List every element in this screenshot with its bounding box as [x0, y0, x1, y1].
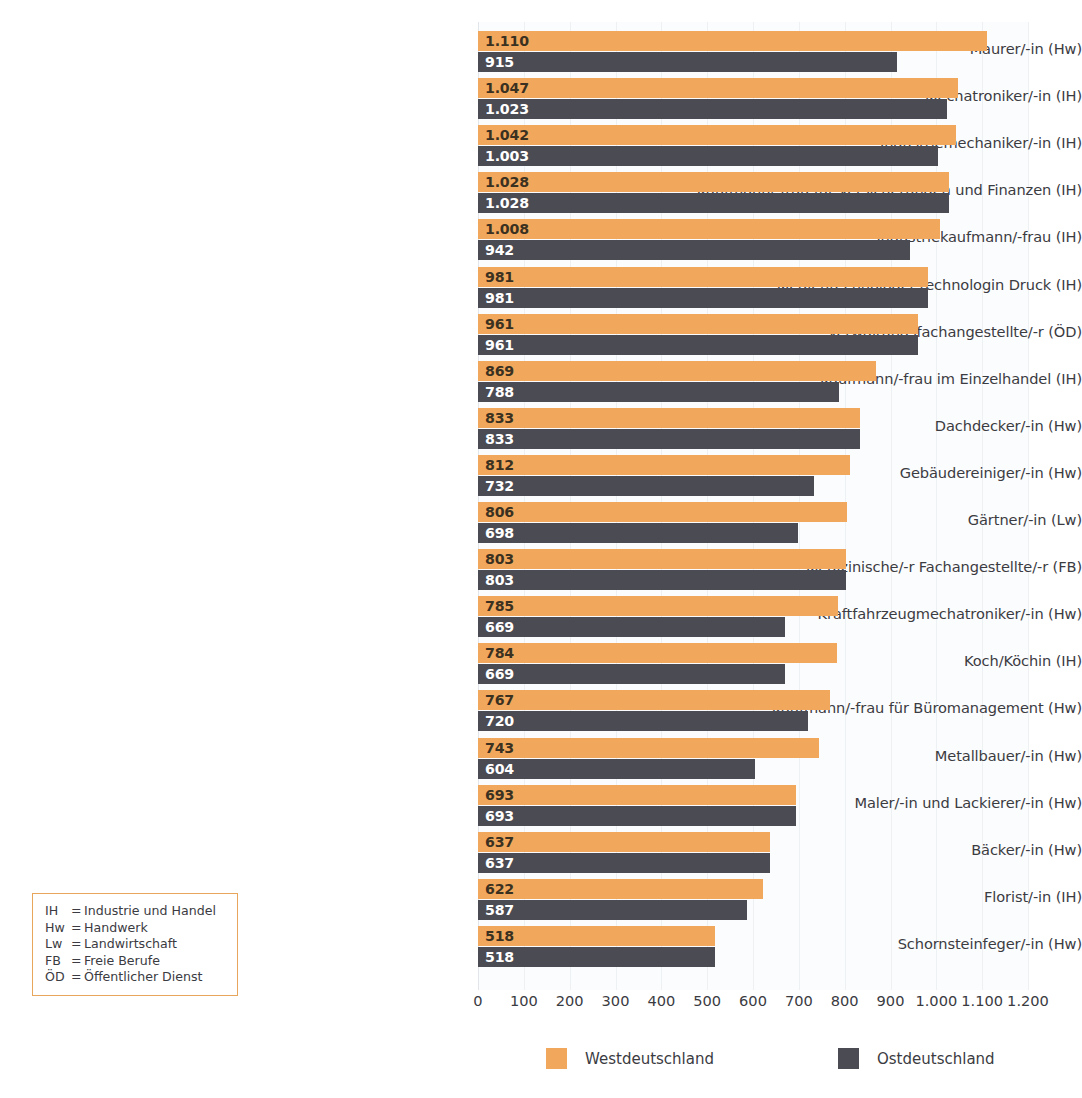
abbreviation-text: Industrie und Handel	[84, 903, 216, 920]
bar-westdeutschland: 803	[478, 549, 846, 569]
bar-row: Medizinische/-r Fachangestellte/-r (FB)8…	[0, 549, 1082, 593]
legend-item-westdeutschland[interactable]: Westdeutschland	[546, 1048, 714, 1069]
abbreviation-equals: =	[71, 903, 84, 920]
bar-value-label: 698	[485, 525, 514, 541]
series-legend: WestdeutschlandOstdeutschland	[0, 1048, 1082, 1088]
bar-value-label: 981	[485, 269, 514, 285]
bar-row: Mechatroniker/-in (IH)1.0471.023	[0, 78, 1082, 122]
bar-westdeutschland: 812	[478, 455, 850, 475]
bar-ostdeutschland: 518	[478, 947, 715, 967]
bar-westdeutschland: 1.110	[478, 31, 987, 51]
bar-value-label: 767	[485, 692, 514, 708]
bar-westdeutschland: 981	[478, 267, 928, 287]
x-tick-label: 1.100	[961, 992, 1003, 1009]
bar-westdeutschland: 1.028	[478, 172, 949, 192]
bar-value-label: 784	[485, 645, 514, 661]
bar-ostdeutschland: 693	[478, 806, 796, 826]
bar-value-label: 1.110	[485, 33, 529, 49]
bar-value-label: 961	[485, 316, 514, 332]
x-axis-tick-labels: 01002003004005006007008009001.0001.1001.…	[0, 992, 1082, 1018]
abbreviation-key: ÖD	[45, 969, 71, 986]
bar-value-label: 788	[485, 384, 514, 400]
abbreviation-key: FB	[45, 953, 71, 970]
bar-row: Industriekaufmann/-frau (IH)1.008942	[0, 219, 1082, 263]
bar-value-label: 732	[485, 478, 514, 494]
bar-value-label: 587	[485, 902, 514, 918]
x-tick-label: 200	[556, 992, 584, 1009]
bar-westdeutschland: 784	[478, 643, 837, 663]
bar-row: Bäcker/-in (Hw)637637	[0, 832, 1082, 876]
bar-value-label: 915	[485, 54, 514, 70]
x-tick-label: 0	[473, 992, 482, 1009]
bar-ostdeutschland: 732	[478, 476, 814, 496]
bar-ostdeutschland: 1.023	[478, 99, 947, 119]
bar-westdeutschland: 1.008	[478, 219, 940, 239]
x-tick-label: 700	[785, 992, 813, 1009]
legend-label: Westdeutschland	[585, 1050, 714, 1068]
bar-value-label: 1.047	[485, 80, 529, 96]
x-tick-label: 1.000	[915, 992, 957, 1009]
abbreviation-row: Hw=Handwerk	[45, 920, 227, 937]
bar-ostdeutschland: 669	[478, 664, 785, 684]
bar-row: Maurer/-in (Hw)1.110915	[0, 31, 1082, 75]
bar-row: Gärtner/-in (Lw)806698	[0, 502, 1082, 546]
bar-ostdeutschland: 788	[478, 382, 839, 402]
abbreviation-key: IH	[45, 903, 71, 920]
bar-ostdeutschland: 637	[478, 853, 770, 873]
bar-row: Koch/Köchin (IH)784669	[0, 643, 1082, 687]
abbreviation-legend-box: IH=Industrie und HandelHw=HandwerkLw=Lan…	[32, 893, 238, 996]
abbreviation-row: Lw=Landwirtschaft	[45, 936, 227, 953]
bar-westdeutschland: 785	[478, 596, 838, 616]
abbreviation-equals: =	[71, 953, 84, 970]
abbreviation-equals: =	[71, 920, 84, 937]
abbreviation-text: Handwerk	[84, 920, 148, 937]
legend-item-ostdeutschland[interactable]: Ostdeutschland	[838, 1048, 995, 1069]
bar-value-label: 693	[485, 808, 514, 824]
x-tick-label: 900	[877, 992, 905, 1009]
legend-label: Ostdeutschland	[877, 1050, 995, 1068]
bar-row: Maler/-in und Lackierer/-in (Hw)693693	[0, 785, 1082, 829]
bar-ostdeutschland: 981	[478, 288, 928, 308]
bar-value-label: 518	[485, 928, 514, 944]
bar-westdeutschland: 518	[478, 926, 715, 946]
bar-ostdeutschland: 803	[478, 570, 846, 590]
bar-chart: Maurer/-in (Hw)1.110915Mechatroniker/-in…	[0, 0, 1082, 1098]
bar-value-label: 961	[485, 337, 514, 353]
bar-ostdeutschland: 669	[478, 617, 785, 637]
bar-value-label: 803	[485, 551, 514, 567]
x-tick-label: 500	[693, 992, 721, 1009]
bar-westdeutschland: 1.047	[478, 78, 958, 98]
bar-value-label: 803	[485, 572, 514, 588]
bar-westdeutschland: 961	[478, 314, 918, 334]
bar-westdeutschland: 806	[478, 502, 847, 522]
abbreviation-equals: =	[71, 969, 84, 986]
bar-ostdeutschland: 1.003	[478, 146, 938, 166]
bar-westdeutschland: 622	[478, 879, 763, 899]
bar-row: Industriemechaniker/-in (IH)1.0421.003	[0, 125, 1082, 169]
bar-value-label: 669	[485, 666, 514, 682]
bar-value-label: 693	[485, 787, 514, 803]
abbreviation-text: Landwirtschaft	[84, 936, 177, 953]
bar-value-label: 833	[485, 410, 514, 426]
bar-westdeutschland: 743	[478, 738, 819, 758]
bar-value-label: 637	[485, 855, 514, 871]
bar-ostdeutschland: 833	[478, 429, 860, 449]
bar-ostdeutschland: 587	[478, 900, 747, 920]
bar-value-label: 1.003	[485, 148, 529, 164]
bar-westdeutschland: 1.042	[478, 125, 956, 145]
bar-value-label: 720	[485, 713, 514, 729]
bar-value-label: 1.028	[485, 174, 529, 190]
bar-westdeutschland: 869	[478, 361, 876, 381]
legend-swatch	[546, 1048, 567, 1069]
bar-ostdeutschland: 915	[478, 52, 897, 72]
bar-westdeutschland: 693	[478, 785, 796, 805]
bar-value-label: 518	[485, 949, 514, 965]
bar-value-label: 1.028	[485, 195, 529, 211]
x-tick-label: 100	[510, 992, 538, 1009]
bar-row: Dachdecker/-in (Hw)833833	[0, 408, 1082, 452]
bar-row: Gebäudereiniger/-in (Hw)812732	[0, 455, 1082, 499]
bar-row: Kaufmann/-frau für Versicherungen und Fi…	[0, 172, 1082, 216]
bar-value-label: 669	[485, 619, 514, 635]
bar-value-label: 942	[485, 242, 514, 258]
bar-value-label: 833	[485, 431, 514, 447]
